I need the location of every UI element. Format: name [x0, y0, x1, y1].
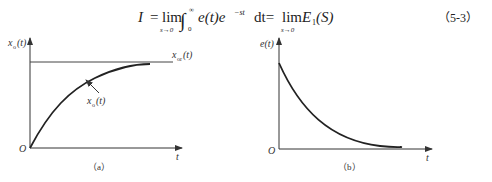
a-ref-label-sub: or — [177, 56, 182, 62]
a-curve-label-arg: (t) — [96, 95, 106, 107]
a-curve-label-sub: o — [92, 102, 95, 108]
a-y-label-sub: o — [13, 44, 16, 50]
figure-b: e(t) O t （b） — [260, 38, 432, 172]
a-origin-label: O — [19, 143, 26, 154]
a-curve-pointer-arrow — [86, 80, 99, 93]
a-x-label: t — [176, 151, 179, 162]
b-error-curve — [279, 63, 401, 147]
b-caption: （b） — [338, 162, 361, 172]
a-ref-label-arg: (t) — [183, 49, 193, 61]
b-origin-label: O — [268, 145, 275, 156]
a-y-label-arg: (t) — [17, 37, 27, 49]
a-caption: （a） — [88, 162, 110, 172]
b-y-label: e(t) — [260, 38, 275, 50]
figures-svg: x o (t) x or (t) x o (t) O t （a） e(t) O … — [0, 0, 492, 182]
figure-a: x o (t) x or (t) x o (t) O t （a） — [7, 37, 193, 172]
a-response-curve — [30, 64, 150, 148]
b-x-label: t — [426, 152, 429, 163]
